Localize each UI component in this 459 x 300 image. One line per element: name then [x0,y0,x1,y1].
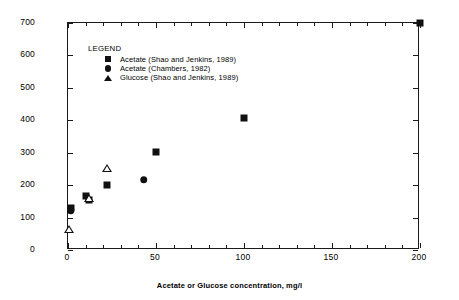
data-point-marker [102,164,112,172]
x-axis-tick-label: 100 [223,253,263,262]
legend-item-acetate-shao-jenkins: Acetate (Shao and Jenkins, 1989) [88,55,238,64]
data-point-marker [103,182,110,189]
chart-legend: LEGEND Acetate (Shao and Jenkins, 1989) … [88,44,238,83]
data-point-marker [64,225,74,233]
y-axis-tick-label: 400 [20,115,35,124]
y-axis-tick [413,185,418,186]
x-axis-tick [332,23,333,28]
data-point-marker [84,194,94,202]
x-axis-tick [156,243,157,248]
y-axis-tick-label: 700 [20,18,35,27]
triangle-filled-icon [100,75,116,81]
y-axis-tick [413,218,418,219]
x-axis-title: Acetate or Glucose concentration, mg/l [0,281,459,290]
x-axis-minor-tick [262,23,263,26]
x-axis-minor-tick [297,23,298,26]
legend-item-acetate-chambers: Acetate (Chambers, 1982) [88,64,238,73]
x-axis-minor-tick [385,23,386,26]
x-axis-minor-tick [350,245,351,248]
y-axis-tick-label: 300 [20,148,35,157]
x-axis-minor-tick [121,245,122,248]
x-axis-tick-label: 150 [311,253,351,262]
x-axis-minor-tick [226,245,227,248]
y-axis-tick [413,55,418,56]
data-point-marker [153,148,160,155]
y-axis-tick-label: 200 [20,180,35,189]
x-axis-minor-tick [314,23,315,26]
x-axis-minor-tick [279,245,280,248]
x-axis-minor-tick [103,245,104,248]
x-axis-tick [244,243,245,248]
y-axis-tick [68,153,73,154]
x-axis-minor-tick [209,245,210,248]
x-axis-minor-tick [86,23,87,26]
x-axis-minor-tick [279,23,280,26]
x-axis-minor-tick [191,23,192,26]
legend-item-label: Acetate (Shao and Jenkins, 1989) [120,55,236,64]
y-axis-tick [413,120,418,121]
x-axis-minor-tick [402,245,403,248]
x-axis-minor-tick [86,245,87,248]
x-axis-minor-tick [262,245,263,248]
x-axis-tick-label: 0 [47,253,87,262]
x-axis-tick-label: 200 [399,253,439,262]
legend-item-label: Glucose (Shao and Jenkins, 1989) [120,73,238,82]
y-axis-tick [68,88,73,89]
x-axis-minor-tick [226,23,227,26]
x-axis-minor-tick [367,23,368,26]
y-axis-tick [68,23,73,24]
x-axis-minor-tick [402,23,403,26]
circle-filled-icon [100,65,116,72]
x-axis-minor-tick [209,23,210,26]
x-axis-tick [68,243,69,248]
x-axis-minor-tick [174,23,175,26]
scatter-chart-figure: SVI, ml/g 050100150200010020030040050060… [0,0,459,300]
data-point-marker [67,207,75,215]
legend-item-glucose-shao-jenkins: Glucose (Shao and Jenkins, 1989) [88,73,238,82]
y-axis-tick [68,250,73,251]
x-axis-minor-tick [297,245,298,248]
y-axis-tick [68,185,73,186]
x-axis-minor-tick [138,23,139,26]
y-axis-tick-label: 600 [20,50,35,59]
x-axis-tick [332,243,333,248]
y-axis-tick [68,120,73,121]
legend-item-label: Acetate (Chambers, 1982) [120,64,210,73]
y-axis-tick [68,218,73,219]
x-axis-minor-tick [191,245,192,248]
x-axis-tick [420,243,421,248]
square-filled-icon [100,56,116,62]
y-axis-tick-label: 0 [30,245,35,254]
x-axis-minor-tick [367,245,368,248]
y-axis-tick [413,153,418,154]
x-axis-minor-tick [385,245,386,248]
x-axis-tick [156,23,157,28]
y-axis-tick [68,55,73,56]
y-axis-tick [413,88,418,89]
data-point-marker [417,20,424,27]
x-axis-minor-tick [121,23,122,26]
y-axis-tick-label: 100 [20,213,35,222]
y-axis-tick-label: 500 [20,83,35,92]
x-axis-tick-label: 50 [135,253,175,262]
x-axis-tick [244,23,245,28]
x-axis-minor-tick [314,245,315,248]
data-point-marker [241,114,248,121]
x-axis-minor-tick [350,23,351,26]
data-point-marker [140,176,148,184]
x-axis-minor-tick [138,245,139,248]
x-axis-minor-tick [174,245,175,248]
x-axis-minor-tick [103,23,104,26]
legend-title: LEGEND [88,44,238,53]
y-axis-tick [413,250,418,251]
